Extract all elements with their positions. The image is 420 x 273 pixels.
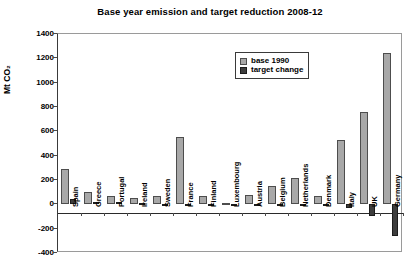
y-axis-tick-label: -200 (10, 224, 54, 233)
chart-legend: base 1990 target change (235, 52, 309, 79)
x-axis-label-netherlands: Netherlands (302, 164, 310, 207)
x-axis-label-greece: Greece (95, 182, 103, 207)
emissions-bar-chart: Base year emission and target reduction … (0, 0, 420, 273)
x-axis-tick-mark (173, 213, 174, 216)
x-axis-label-france: France (187, 183, 195, 208)
bar-spain-base (61, 169, 70, 204)
plot-area (57, 33, 402, 252)
y-axis-tick-label: 0 (10, 199, 54, 208)
x-axis-label-belgium: Belgium (279, 178, 287, 208)
y-axis-tick-label: 1200 (10, 53, 54, 62)
bar-uk-base (360, 112, 369, 204)
x-axis-tick-mark (127, 213, 128, 216)
bar-sweden-base (153, 196, 162, 205)
x-axis-label-germany: Germany (394, 175, 402, 208)
x-axis-tick-mark (104, 213, 105, 216)
x-axis-label-sweden: Sweden (164, 179, 172, 207)
bar-italy-base (337, 140, 346, 204)
x-axis-label-italy: Italy (348, 192, 356, 207)
x-axis-tick-mark (150, 213, 151, 216)
x-axis-label-luxembourg: Luxembourg (233, 162, 241, 207)
x-axis-label-denmark: Denmark (325, 175, 333, 207)
legend-item-target: target change (240, 66, 303, 74)
bar-denmark-base (314, 196, 323, 205)
bar-germany-base (383, 53, 392, 204)
x-axis-tick-mark (196, 213, 197, 216)
x-axis-label-finland: Finland (210, 181, 218, 208)
legend-item-base: base 1990 (240, 57, 303, 65)
y-axis-tick-label: -400 (10, 248, 54, 257)
bar-portugal-base (107, 196, 116, 204)
y-axis-tick-label: 200 (10, 175, 54, 184)
x-axis-tick-mark (265, 213, 266, 216)
x-axis-label-austria: Austria (256, 181, 264, 207)
x-axis-label-spain: Spain (72, 187, 80, 207)
bar-germany-target (392, 204, 398, 236)
x-axis-tick-mark (219, 213, 220, 216)
y-axis-tick-label: 600 (10, 126, 54, 135)
bar-france-base (176, 137, 185, 205)
bar-luxembourg-base (222, 203, 231, 205)
bar-finland-base (199, 196, 208, 205)
x-axis-tick-mark (242, 213, 243, 216)
legend-label-base: base 1990 (251, 57, 289, 65)
bar-belgium-base (268, 186, 277, 204)
legend-swatch-target-icon (240, 67, 247, 74)
y-axis-tick-label: 400 (10, 151, 54, 160)
x-axis-tick-mark (334, 213, 335, 216)
y-axis-tick-label: 1400 (10, 29, 54, 38)
y-axis-tick-label: 800 (10, 102, 54, 111)
bar-greece-base (84, 192, 93, 205)
bar-ireland-base (130, 198, 139, 205)
legend-label-target: target change (251, 66, 303, 74)
x-axis-label-portugal: Portugal (118, 177, 126, 207)
y-axis-tick-mark (53, 252, 57, 253)
zero-baseline (58, 213, 403, 214)
y-axis-tick-label: 1000 (10, 78, 54, 87)
legend-swatch-base-icon (240, 58, 247, 65)
x-axis-tick-mark (288, 213, 289, 216)
bar-austria-base (245, 195, 254, 205)
x-axis-tick-mark (380, 213, 381, 216)
bar-netherlands-base (291, 178, 300, 204)
x-axis-tick-mark (311, 213, 312, 216)
x-axis-label-ireland: Ireland (141, 183, 149, 208)
x-axis-label-uk: UK (371, 196, 379, 207)
x-axis-tick-mark (357, 213, 358, 216)
x-axis-tick-mark (81, 213, 82, 216)
x-axis-tick-mark (403, 213, 404, 216)
